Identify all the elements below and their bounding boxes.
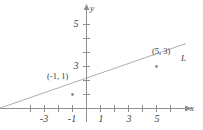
- y-axis-label: y: [90, 4, 94, 13]
- point-label-minus1-1: (-1, 1): [47, 72, 68, 81]
- line-graph-figure: 5 3 -3 -1 1 3 5 x y (-1, 1) (5, 3) L: [0, 0, 203, 130]
- line-label-L: L: [181, 54, 186, 63]
- x-tick-label-1: 1: [99, 114, 104, 124]
- x-tick-label-minus-1: -1: [68, 114, 76, 124]
- x-tick-label-minus-3: -3: [40, 114, 48, 124]
- x-tick-label-5: 5: [155, 114, 160, 124]
- y-axis-arrowhead: [84, 4, 90, 10]
- x-axis-label: x: [190, 104, 194, 113]
- x-tick-label-3: 3: [127, 114, 132, 124]
- point-marker-minus1-1: [71, 93, 74, 96]
- point-marker-5-3: [155, 65, 158, 68]
- point-label-5-3: (5, 3): [152, 47, 170, 56]
- coordinate-plane-svg: [0, 0, 203, 130]
- y-tick-label-3: 3: [74, 61, 79, 71]
- y-tick-label-5: 5: [74, 19, 79, 29]
